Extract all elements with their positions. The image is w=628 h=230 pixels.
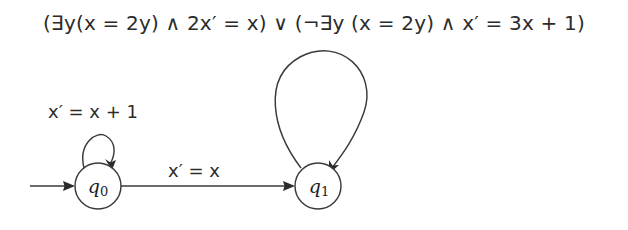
- transition-q0-to-q1: [121, 181, 295, 191]
- state-label-q0: q0: [88, 175, 108, 199]
- state-label-q1: q1: [309, 175, 329, 199]
- transition-label-q0-self: x′ = x + 1: [48, 101, 138, 123]
- state-label-q1-subscript: 1: [321, 184, 329, 199]
- state-label-q0-name: q: [88, 175, 100, 197]
- start-arrow: [30, 181, 75, 191]
- state-label-q0-subscript: 0: [100, 184, 108, 199]
- transition-q1-self-loop: [275, 51, 367, 174]
- transition-label-q0-to-q1: x′ = x: [168, 160, 220, 182]
- figure-canvas: (∃y(x = 2y) ∧ 2x′ = x) ∨ (¬∃y (x = 2y) ∧…: [0, 0, 628, 230]
- state-label-q1-name: q: [309, 175, 321, 197]
